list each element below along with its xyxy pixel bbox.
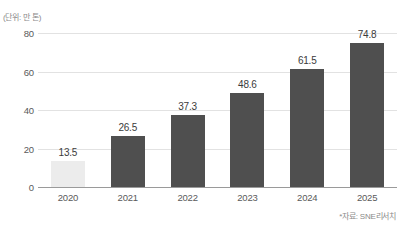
x-axis-tick-label: 2025 bbox=[337, 192, 397, 203]
y-axis-tick-label: 60 bbox=[6, 66, 34, 77]
bar-slot: 61.5 bbox=[277, 0, 337, 187]
source-note: *자료: SNE리서치 bbox=[339, 210, 396, 221]
bar-value-label: 61.5 bbox=[298, 55, 317, 66]
bar-chart: (단위: 만 톤) 020406080 13.526.537.348.661.5… bbox=[0, 0, 402, 227]
y-axis-tick-label: 20 bbox=[6, 143, 34, 154]
plot-area: 020406080 13.526.537.348.661.574.8 20202… bbox=[0, 0, 402, 227]
bar bbox=[290, 69, 324, 187]
bar-value-label: 48.6 bbox=[238, 79, 257, 90]
bar-slot: 26.5 bbox=[98, 0, 158, 187]
bar-value-label: 26.5 bbox=[118, 122, 137, 133]
x-axis-tick-label: 2023 bbox=[218, 192, 278, 203]
bar bbox=[350, 43, 384, 187]
bar-slot: 48.6 bbox=[218, 0, 278, 187]
bar-value-label: 37.3 bbox=[178, 101, 197, 112]
bar-slot: 74.8 bbox=[337, 0, 397, 187]
x-axis-tick-label: 2022 bbox=[158, 192, 218, 203]
bar bbox=[111, 136, 145, 187]
y-axis-tick-label: 80 bbox=[6, 28, 34, 39]
bar-slot: 37.3 bbox=[158, 0, 218, 187]
x-axis-tick-label: 2020 bbox=[38, 192, 98, 203]
bar-value-label: 13.5 bbox=[59, 147, 78, 158]
x-axis-tick-label: 2021 bbox=[98, 192, 158, 203]
bar bbox=[171, 115, 205, 187]
bar-value-label: 74.8 bbox=[358, 29, 377, 40]
bar-slot: 13.5 bbox=[38, 0, 98, 187]
bar bbox=[230, 93, 264, 187]
y-axis-tick-label: 40 bbox=[6, 105, 34, 116]
bar bbox=[51, 161, 85, 187]
x-axis-tick-label: 2024 bbox=[277, 192, 337, 203]
y-axis-tick-label: 0 bbox=[6, 182, 34, 193]
